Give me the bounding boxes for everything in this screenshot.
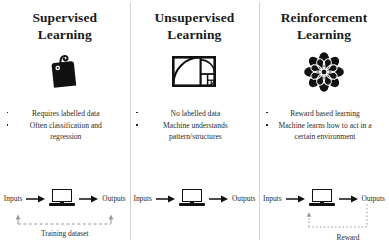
bullet-dot-icon <box>136 124 138 126</box>
list-item: Machine learns how to act in a certain e… <box>264 121 384 143</box>
flow-output-label: Outputs <box>232 194 255 203</box>
title-line-1: Reinforcement <box>262 9 386 26</box>
arrow-right-icon <box>156 195 175 203</box>
golden-ratio-spiral-icon <box>172 56 216 87</box>
bullet-dot-icon <box>136 112 138 114</box>
icon-container-reinforcement <box>304 49 344 95</box>
flow-row: Inputs Ou <box>130 189 260 208</box>
bullet-text: Often classification and regression <box>30 121 102 141</box>
bullet-text: No labelled data <box>171 109 221 118</box>
title-line-1: Unsupervised <box>132 9 256 26</box>
flow-output-label: Outputs <box>362 194 385 203</box>
flow-diagram-reinforcement: Inputs Ou <box>259 177 389 249</box>
arrow-right-icon <box>286 195 305 203</box>
title-line-2: Learning <box>262 26 386 43</box>
column-unsupervised-learning: Unsupervised Learning No labelled d <box>130 0 260 249</box>
bullet-text: Machine understands pattern/structures <box>163 121 228 141</box>
flow-diagram-supervised: Inputs Ou <box>0 177 130 249</box>
icon-container-supervised <box>45 49 85 95</box>
flow-input-label: Inputs <box>263 194 281 203</box>
bullet-list-supervised: Requires labelled data Often classificat… <box>5 109 125 144</box>
laptop-icon <box>309 189 335 208</box>
column-reinforcement-learning: Reinforcement Learning <box>259 0 389 249</box>
title-line-1: Supervised <box>3 9 127 26</box>
list-item: Machine understands pattern/structures <box>134 121 254 143</box>
list-item: Often classification and regression <box>5 121 125 143</box>
flow-input-label: Inputs <box>4 194 22 203</box>
training-dataset-feedback-loop <box>0 177 130 249</box>
arrow-right-icon <box>26 195 45 203</box>
page-title-unsupervised: Unsupervised Learning <box>132 9 256 44</box>
bullet-dot-icon <box>266 124 268 126</box>
bullet-list-reinforcement: Reward based learning Machine learns how… <box>264 109 384 144</box>
rosette-flower-icon <box>304 52 344 92</box>
flow-input-label: Inputs <box>133 194 151 203</box>
flow-diagram-unsupervised: Inputs Ou <box>130 177 260 249</box>
arrow-right-icon <box>339 195 358 203</box>
laptop-icon <box>179 189 205 208</box>
price-tag-icon <box>45 53 85 91</box>
title-line-2: Learning <box>132 26 256 43</box>
bullet-dot-icon <box>266 112 268 114</box>
reward-caption: Reward <box>259 233 389 242</box>
arrow-right-icon <box>79 195 98 203</box>
bullet-text: Requires labelled data <box>32 109 99 118</box>
bullet-dot-icon <box>7 124 9 126</box>
bullet-text: Machine learns how to act in a certain e… <box>278 121 371 141</box>
list-item: Requires labelled data <box>5 109 125 120</box>
bullet-dot-icon <box>7 112 9 114</box>
flow-output-label: Outputs <box>102 194 125 203</box>
bullet-list-unsupervised: No labelled data Machine understands pat… <box>134 109 254 144</box>
page-title-reinforcement: Reinforcement Learning <box>262 9 386 44</box>
list-item: Reward based learning <box>264 109 384 120</box>
training-dataset-caption: Training dataset <box>0 229 130 238</box>
flow-row: Inputs Ou <box>0 189 130 208</box>
title-line-2: Learning <box>3 26 127 43</box>
bullet-text: Reward based learning <box>290 109 360 118</box>
flow-row: Inputs Ou <box>259 189 389 208</box>
icon-container-unsupervised <box>172 49 216 95</box>
ml-types-comparison-diagram: Supervised Learning Requires labelled da… <box>0 0 389 249</box>
page-title-supervised: Supervised Learning <box>3 9 127 44</box>
column-supervised-learning: Supervised Learning Requires labelled da… <box>0 0 130 249</box>
arrow-right-icon <box>209 195 228 203</box>
list-item: No labelled data <box>134 109 254 120</box>
laptop-icon <box>49 189 75 208</box>
